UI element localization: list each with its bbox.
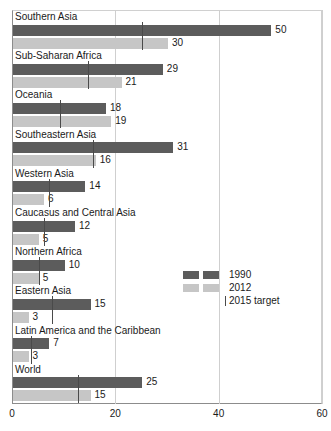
bar-row: 6 (13, 194, 323, 205)
category-label: World (15, 364, 41, 376)
category-label: Eastern Asia (15, 285, 71, 297)
bar-2012 (13, 390, 91, 401)
category-label: Western Asia (15, 168, 74, 180)
target-marker (78, 375, 79, 403)
target-marker (52, 296, 53, 324)
bar-row: 50 (13, 25, 323, 36)
bar-row: 5 (13, 234, 323, 245)
legend-swatch-2012-b (203, 284, 219, 292)
bar-value-label: 3 (33, 350, 39, 362)
legend-label-2012: 2012 (229, 282, 251, 294)
bar-group: Caucasus and Central Asia125 (13, 207, 322, 246)
category-label: Caucasus and Central Asia (15, 207, 136, 219)
bar-row: 16 (13, 155, 323, 166)
bar-value-label: 16 (100, 154, 111, 166)
bar-groups: Southern Asia5030Sub-Saharan Africa2921O… (13, 11, 322, 404)
x-axis-tick-labels: 0204060 (0, 408, 331, 424)
bar-row: 31 (13, 142, 323, 153)
bar-chart: Southern Asia5030Sub-Saharan Africa2921O… (0, 0, 331, 431)
legend-swatch-1990-a (183, 271, 199, 279)
category-label: Southeastern Asia (15, 129, 96, 141)
bar-row: 25 (13, 377, 323, 388)
bar-group: Southeastern Asia3116 (13, 129, 322, 168)
category-label: Latin America and the Caribbean (15, 325, 161, 337)
bar-2012 (13, 273, 39, 284)
legend-label-1990: 1990 (229, 269, 251, 281)
bar-row: 29 (13, 64, 323, 75)
legend-tick-icon (225, 296, 226, 306)
x-tick-label: 20 (110, 408, 121, 419)
bar-2012 (13, 77, 122, 88)
bar-group: Southern Asia5030 (13, 11, 322, 50)
target-marker (88, 61, 89, 89)
bar-value-label: 14 (89, 180, 100, 192)
bar-group: World2515 (13, 364, 322, 403)
bar-row: 7 (13, 338, 323, 349)
category-label: Oceania (15, 89, 52, 101)
target-marker (49, 179, 50, 207)
bar-row: 3 (13, 351, 323, 362)
bar-value-label: 10 (69, 259, 80, 271)
bar-2012 (13, 234, 39, 245)
bar-row: 15 (13, 390, 323, 401)
bar-row: 3 (13, 312, 323, 323)
legend-swatch-2012-a (183, 284, 199, 292)
target-marker (44, 218, 45, 246)
target-marker (93, 140, 94, 168)
bar-group: Sub-Saharan Africa2921 (13, 50, 322, 89)
legend-item-2015-target: 2015 target (183, 296, 293, 307)
bar-value-label: 18 (110, 102, 121, 114)
bar-group: Western Asia146 (13, 168, 322, 207)
bar-2012 (13, 155, 96, 166)
target-marker (142, 22, 143, 50)
bar-value-label: 25 (146, 376, 157, 388)
bar-value-label: 12 (79, 220, 90, 232)
bar-value-label: 15 (95, 389, 106, 401)
bar-value-label: 29 (167, 63, 178, 75)
bar-group: Latin America and the Caribbean73 (13, 325, 322, 364)
x-tick-label: 60 (316, 408, 327, 419)
legend-swatch-1990-b (203, 271, 219, 279)
legend-item-2012: 2012 (183, 283, 293, 294)
x-tick-label: 0 (9, 408, 15, 419)
x-tick-label: 40 (213, 408, 224, 419)
bar-value-label: 5 (43, 272, 49, 284)
legend-item-1990: 1990 (183, 270, 293, 281)
bar-row: 30 (13, 38, 323, 49)
bar-value-label: 21 (126, 76, 137, 88)
category-label: Northern Africa (15, 246, 82, 258)
bar-value-label: 30 (172, 37, 183, 49)
chart-legend: 1990 2012 2015 target (183, 270, 293, 309)
bar-row: 12 (13, 221, 323, 232)
bar-2012 (13, 351, 29, 362)
bar-2012 (13, 38, 168, 49)
target-marker (60, 100, 61, 128)
bar-row: 14 (13, 181, 323, 192)
bar-value-label: 15 (95, 298, 106, 310)
bar-row: 21 (13, 77, 323, 88)
legend-label-2015-target: 2015 target (229, 295, 280, 307)
bar-value-label: 19 (115, 115, 126, 127)
target-marker (39, 257, 40, 285)
bar-2012 (13, 312, 29, 323)
bar-2012 (13, 194, 44, 205)
bar-value-label: 50 (275, 24, 286, 36)
target-marker (31, 336, 32, 364)
category-label: Southern Asia (15, 11, 77, 23)
bar-value-label: 7 (53, 337, 59, 349)
bar-value-label: 3 (33, 311, 39, 323)
bar-value-label: 31 (177, 141, 188, 153)
bar-group: Oceania1819 (13, 89, 322, 128)
bar-2012 (13, 116, 111, 127)
